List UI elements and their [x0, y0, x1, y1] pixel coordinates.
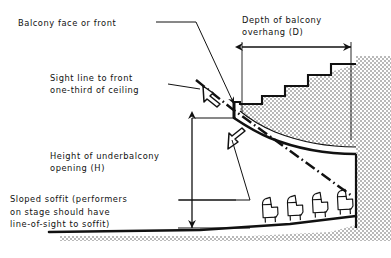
seat	[312, 192, 328, 218]
label-soffit-line3: line-of-sight to soffit)	[10, 219, 110, 229]
soffit-pointer-arrow	[228, 128, 245, 149]
seat	[262, 197, 278, 223]
label-height-of-underbalcony-opening: Height of underbalconyopening (H)	[50, 150, 160, 174]
label-sight-line-line1: Sight line to front	[50, 73, 133, 83]
label-sloped-soffit: Sloped soffit (performerson stage should…	[10, 193, 127, 231]
label-balcony-face: Balcony face or front	[18, 18, 116, 30]
label-height-line2: opening (H)	[50, 163, 105, 173]
seat	[287, 195, 303, 221]
label-depth-line1: Depth of balcony	[242, 15, 322, 25]
label-height-line1: Height of underbalcony	[50, 151, 160, 161]
label-sight-line-line2: one-third of ceiling	[50, 85, 139, 95]
label-depth-line2: overhang (D)	[242, 27, 303, 37]
seat	[337, 189, 353, 215]
label-soffit-line2: on stage should have	[10, 207, 110, 217]
diagram-canvas: Balcony face or front Sight line to fron…	[0, 0, 391, 258]
label-depth-of-balcony-overhang: Depth of balconyoverhang (D)	[242, 15, 322, 38]
label-sight-line: Sight line to frontone-third of ceiling	[50, 72, 139, 96]
label-soffit-line1: Sloped soffit (performers	[10, 194, 127, 204]
